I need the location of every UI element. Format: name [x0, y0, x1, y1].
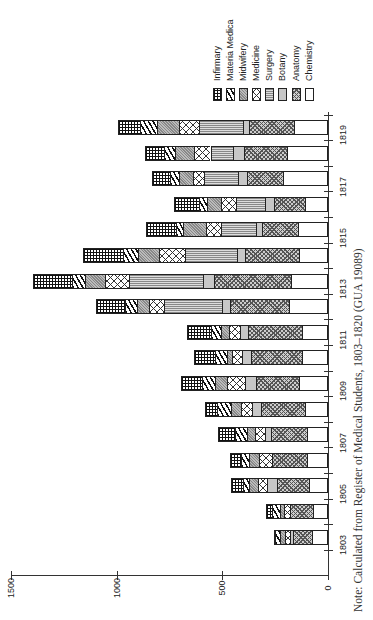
segment-materia	[241, 453, 249, 468]
year-tick	[324, 294, 333, 295]
segment-anatomy	[256, 376, 299, 391]
segment-anatomy	[277, 478, 309, 493]
bar-1811	[187, 325, 328, 340]
segment-chemistry	[302, 350, 328, 365]
year-tick	[324, 550, 333, 551]
segment-botany	[290, 530, 293, 545]
year-tick	[324, 422, 333, 423]
segment-infirmary	[146, 222, 176, 237]
segment-infirmary	[274, 530, 275, 545]
segment-medicine	[241, 402, 252, 417]
segment-infirmary	[205, 402, 218, 417]
segment-botany	[233, 146, 244, 161]
bar-1816	[174, 197, 328, 212]
segment-infirmary	[83, 248, 124, 263]
bar-1803	[274, 530, 328, 545]
segment-chemistry	[307, 453, 328, 468]
segment-materia	[235, 427, 247, 442]
year-tick	[324, 396, 333, 397]
segment-anatomy	[244, 146, 287, 161]
legend-swatch	[213, 88, 222, 101]
year-label: 1813	[338, 274, 348, 304]
segment-botany	[203, 274, 214, 289]
bar-1805	[231, 478, 328, 493]
segment-medicine	[149, 299, 165, 314]
segment-materia	[176, 222, 183, 237]
segment-surgery	[236, 197, 266, 212]
segment-chemistry	[299, 376, 328, 391]
bar-1804	[266, 504, 328, 519]
segment-botany	[240, 325, 248, 340]
segment-botany	[245, 376, 256, 391]
segment-materia	[272, 504, 280, 519]
segment-midwifery	[183, 222, 206, 237]
year-tick	[324, 268, 333, 269]
segment-materia	[125, 299, 137, 314]
segment-materia	[217, 402, 231, 417]
segment-anatomy	[249, 120, 294, 135]
year-axis-line	[328, 112, 329, 576]
segment-infirmary	[174, 197, 199, 212]
segment-medicine	[206, 222, 222, 237]
segment-materia	[275, 530, 280, 545]
legend-swatch	[265, 88, 274, 101]
segment-materia	[211, 325, 221, 340]
segment-midwifery	[175, 146, 194, 161]
year-label: 1817	[338, 172, 348, 202]
segment-anatomy	[214, 274, 291, 289]
segment-botany	[252, 402, 261, 417]
year-label: 1811	[338, 325, 348, 355]
segment-medicine	[179, 120, 199, 135]
segment-midwifery	[85, 274, 105, 289]
segment-infirmary	[194, 350, 215, 365]
segment-botany	[265, 427, 271, 442]
segment-anatomy	[271, 427, 307, 442]
segment-medicine	[255, 427, 265, 442]
year-tick	[324, 115, 333, 116]
segment-medicine	[159, 248, 185, 263]
segment-chemistry	[299, 248, 328, 263]
segment-medicine	[221, 197, 236, 212]
bar-1809	[181, 376, 328, 391]
segment-chemistry	[302, 325, 328, 340]
legend-label: Midwifery	[238, 43, 248, 81]
segment-midwifery	[247, 427, 255, 442]
segment-botany	[265, 197, 274, 212]
year-tick	[324, 524, 333, 525]
segment-midwifery	[221, 325, 229, 340]
legend-swatch	[239, 88, 248, 101]
bar-1812	[96, 299, 328, 314]
segment-midwifery	[231, 402, 241, 417]
segment-anatomy	[261, 402, 305, 417]
segment-midwifery	[249, 453, 259, 468]
segment-medicine	[227, 376, 245, 391]
segment-anatomy	[251, 350, 302, 365]
segment-chemistry	[294, 120, 328, 135]
segment-chemistry	[309, 478, 328, 493]
source-note: Note: Calculated from Register of Medica…	[352, 249, 364, 612]
segment-chemistry	[305, 402, 328, 417]
year-label: 1809	[338, 376, 348, 406]
value-tick-label: 0	[323, 573, 333, 603]
segment-medicine	[232, 350, 242, 365]
segment-materia	[123, 248, 138, 263]
segment-anatomy	[272, 453, 307, 468]
segment-chemistry	[298, 222, 328, 237]
bar-1814	[83, 248, 328, 263]
segment-infirmary	[152, 171, 170, 186]
year-tick	[324, 217, 333, 218]
stacked-bar-chart: 050010001500 180318051807180918111813181…	[0, 0, 373, 620]
segment-botany	[243, 120, 249, 135]
segment-anatomy	[230, 299, 289, 314]
year-tick	[324, 499, 333, 500]
segment-chemistry	[283, 171, 328, 186]
segment-surgery	[164, 299, 222, 314]
segment-midwifery	[280, 530, 284, 545]
legend-label: Medicine	[251, 45, 261, 81]
segment-infirmary	[118, 120, 140, 135]
segment-midwifery	[137, 299, 149, 314]
segment-chemistry	[305, 197, 328, 212]
segment-materia	[140, 120, 157, 135]
bar-1818	[145, 146, 328, 161]
segment-chemistry	[307, 427, 328, 442]
